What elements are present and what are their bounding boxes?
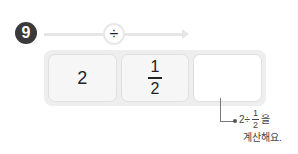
hint-particle: 을: [261, 114, 270, 126]
arrow-head-icon: [182, 29, 189, 39]
hint-frac-numerator: 1: [253, 109, 258, 118]
hint-expr: 2÷: [239, 114, 250, 126]
fraction-bar: [148, 77, 162, 79]
hint-fraction: 1 2: [252, 109, 259, 130]
leader-line-horizontal: [220, 121, 234, 122]
divisor-cell: 1 2: [121, 54, 190, 102]
fraction-denominator: 2: [151, 81, 160, 97]
problem-number-badge: 9: [15, 22, 37, 44]
divisor-fraction: 1 2: [148, 59, 162, 97]
leader-line-vertical: [220, 98, 221, 121]
division-operator-icon: ÷: [103, 23, 125, 45]
answer-input-cell[interactable]: [193, 54, 262, 102]
hint-frac-denominator: 2: [253, 121, 258, 130]
hint-line2: 계산해요.: [243, 132, 282, 144]
answer-row: 2 1 2: [44, 50, 266, 106]
dividend-cell: 2: [48, 54, 117, 102]
dividend-value: 2: [77, 68, 87, 89]
leader-dot: [233, 119, 237, 123]
fraction-numerator: 1: [151, 59, 160, 75]
hint-note: 2÷ 1 2 을 계산해요.: [239, 109, 282, 144]
